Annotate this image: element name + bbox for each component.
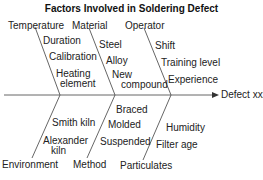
- cause-calibration: Calibration: [49, 52, 97, 62]
- cause-experience: Experience: [168, 75, 218, 85]
- cause-steel: Steel: [99, 40, 122, 50]
- category-material: Material: [72, 21, 108, 31]
- cause-braced: Braced: [116, 105, 148, 115]
- cause-suspended: Suspended: [100, 137, 151, 147]
- cause-duration: Duration: [43, 36, 81, 46]
- category-temperature: Temperature: [8, 21, 64, 31]
- cause-filter-age: Filter age: [156, 140, 198, 150]
- category-method: Method: [73, 160, 106, 170]
- category-operator: Operator: [125, 21, 164, 31]
- cause-humidity: Humidity: [166, 123, 205, 133]
- cause-new-compound-line2: compound: [121, 80, 168, 90]
- cause-heating-element-line2: element: [60, 79, 96, 89]
- cause-smith-kiln: Smith kiln: [52, 118, 95, 128]
- category-particulates: Particulates: [120, 161, 172, 171]
- effect-label: Defect xxx: [221, 90, 263, 100]
- cause-molded: Molded: [108, 120, 141, 130]
- cause-alexander-kiln-line2: kiln: [51, 146, 66, 156]
- cause-training-level: Training level: [161, 58, 220, 68]
- cause-shift: Shift: [155, 41, 175, 51]
- category-environment: Environment: [2, 160, 58, 170]
- arrowhead-icon: [212, 92, 219, 98]
- cause-alloy: Alloy: [106, 56, 128, 66]
